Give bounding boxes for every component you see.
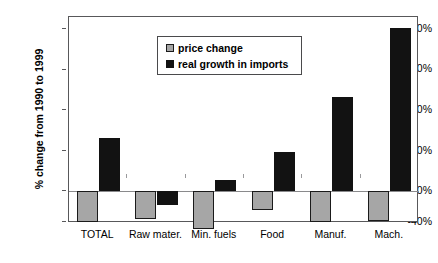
bar-real-growth-1 <box>157 191 178 205</box>
bar-price-change-3 <box>252 191 273 210</box>
clipped-caption-row <box>0 256 438 263</box>
x-tick-mark-2 <box>185 174 186 178</box>
y-axis-title: % change from 1990 to 1999 <box>33 19 45 219</box>
y-tick-mark-neg40 <box>62 221 66 222</box>
legend-item-real-growth: real growth in imports <box>166 57 288 71</box>
price-swatch-icon <box>166 44 174 52</box>
y-tick-mark-40 <box>62 150 66 151</box>
x-tick-mark-1 <box>126 174 127 178</box>
imports-swatch-icon <box>166 60 174 68</box>
bar-price-change-1 <box>135 191 156 219</box>
x-tick-mark-5 <box>360 174 361 178</box>
chart-figure: % change from 1990 to 1999 160% 120% 80%… <box>0 0 438 263</box>
bar-price-change-4 <box>310 191 331 222</box>
x-tick-mark-4 <box>301 174 302 178</box>
bar-price-change-5 <box>368 191 389 221</box>
y-tick-mark-80 <box>62 109 66 110</box>
bar-real-growth-0 <box>99 138 120 191</box>
legend-item-price-change: price change <box>166 41 243 55</box>
bar-price-change-0 <box>77 191 98 222</box>
bar-real-growth-3 <box>274 152 295 191</box>
y-tick-mark-120 <box>62 69 66 70</box>
bar-real-growth-2 <box>215 180 236 191</box>
plot-area: price change real growth in imports <box>68 16 418 222</box>
y-tick-mark-0 <box>62 190 66 191</box>
chart-legend: price change real growth in imports <box>157 36 302 75</box>
bar-price-change-2 <box>193 191 214 229</box>
legend-label-real-growth: real growth in imports <box>178 58 288 70</box>
bar-real-growth-4 <box>332 97 353 191</box>
bar-real-growth-5 <box>390 28 411 191</box>
y-tick-mark-160 <box>62 28 66 29</box>
x-tick-label-mach: Mach. <box>344 228 434 240</box>
zero-baseline <box>69 191 419 192</box>
x-tick-mark-3 <box>243 174 244 178</box>
legend-label-price-change: price change <box>178 42 243 54</box>
